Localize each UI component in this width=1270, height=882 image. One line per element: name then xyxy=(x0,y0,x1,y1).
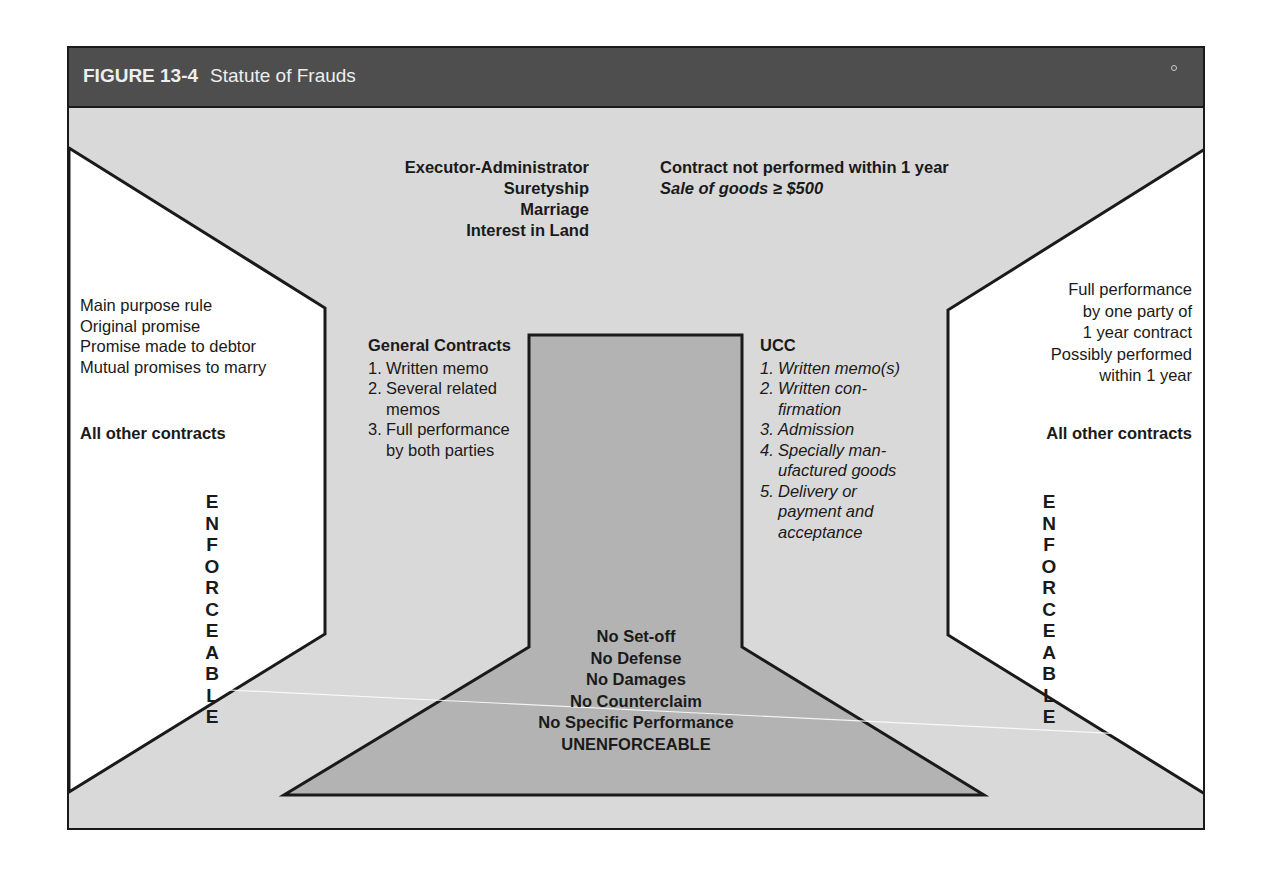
vertical-letter: R xyxy=(202,577,222,599)
list-item: 1.Written memo xyxy=(368,358,511,379)
vertical-letter: B xyxy=(202,663,222,685)
vertical-letter: O xyxy=(202,556,222,578)
consequence-no-defense: No Defense xyxy=(486,648,786,670)
consequence-no-specific-performance: No Specific Performance xyxy=(486,712,786,734)
general-contracts-heading: General Contracts xyxy=(368,335,511,356)
writing-required-categories: Executor-Administrator Suretyship Marria… xyxy=(289,157,589,241)
vertical-letter: E xyxy=(202,620,222,642)
exception-one-year-contract: 1 year contract xyxy=(949,322,1192,344)
category-marriage: Marriage xyxy=(289,199,589,220)
category-sale-of-goods: Sale of goods ≥ $500 xyxy=(660,178,949,199)
right-exceptions-list: Full performance by one party of 1 year … xyxy=(949,279,1192,387)
category-executor-administrator: Executor-Administrator xyxy=(289,157,589,178)
exception-main-purpose: Main purpose rule xyxy=(80,295,266,316)
left-enforceable-label: ENFORCEABLE xyxy=(202,491,222,728)
vertical-letter: E xyxy=(202,706,222,728)
list-item-text: Written memo xyxy=(386,358,488,379)
ucc-heading: UCC xyxy=(760,335,900,356)
exception-mutual-promises: Mutual promises to marry xyxy=(80,357,266,378)
vertical-letter: R xyxy=(1039,577,1059,599)
list-item-number: 3. xyxy=(760,419,778,440)
left-exceptions-list: Main purpose rule Original promise Promi… xyxy=(80,295,266,377)
list-item: 3.Full performanceby both parties xyxy=(368,419,511,460)
unenforceable-label: UNENFORCEABLE xyxy=(486,734,786,756)
consequence-no-setoff: No Set-off xyxy=(486,626,786,648)
list-item-number: 3. xyxy=(368,419,386,460)
general-contracts-list: 1.Written memo2.Several relatedmemos3.Fu… xyxy=(368,358,511,461)
list-item: 1.Written memo(s) xyxy=(760,358,900,379)
left-all-other-contracts: All other contracts xyxy=(80,423,226,444)
consequence-no-counterclaim: No Counterclaim xyxy=(486,691,786,713)
ucc-section: UCC 1.Written memo(s)2.Written con-firma… xyxy=(760,335,900,542)
statute-of-frauds-figure: FIGURE 13-4Statute of Frauds Executor-Ad… xyxy=(67,46,1205,830)
list-item-text: Written con-firmation xyxy=(778,378,867,419)
list-item-text: Specially man-ufactured goods xyxy=(778,440,896,481)
left-enforceable-panel xyxy=(69,148,325,792)
exception-full-performance: Full performance xyxy=(949,279,1192,301)
list-item-number: 2. xyxy=(760,378,778,419)
list-item-text: Delivery orpayment andacceptance xyxy=(778,481,873,543)
category-suretyship: Suretyship xyxy=(289,178,589,199)
list-item: 2.Written con-firmation xyxy=(760,378,900,419)
vertical-letter: F xyxy=(1039,534,1059,556)
category-interest-in-land: Interest in Land xyxy=(289,220,589,241)
vertical-letter: N xyxy=(202,513,222,535)
consequence-no-damages: No Damages xyxy=(486,669,786,691)
writing-required-categories-right: Contract not performed within 1 year Sal… xyxy=(660,157,949,199)
vertical-letter: C xyxy=(202,599,222,621)
list-item: 3.Admission xyxy=(760,419,900,440)
list-item-number: 2. xyxy=(368,378,386,419)
vertical-letter: E xyxy=(202,491,222,513)
exception-original-promise: Original promise xyxy=(80,316,266,337)
list-item-text: Admission xyxy=(778,419,854,440)
vertical-letter: E xyxy=(1039,620,1059,642)
category-one-year: Contract not performed within 1 year xyxy=(660,157,949,178)
exception-promise-to-debtor: Promise made to debtor xyxy=(80,336,266,357)
vertical-letter: L xyxy=(202,685,222,707)
vertical-letter: A xyxy=(202,642,222,664)
vertical-letter: E xyxy=(1039,491,1059,513)
list-item-number: 1. xyxy=(760,358,778,379)
exception-within-one-year: within 1 year xyxy=(949,365,1192,387)
ucc-list: 1.Written memo(s)2.Written con-firmation… xyxy=(760,358,900,543)
vertical-letter: B xyxy=(1039,663,1059,685)
vertical-letter: E xyxy=(1039,706,1059,728)
list-item-number: 4. xyxy=(760,440,778,481)
right-all-other-contracts: All other contracts xyxy=(949,423,1192,444)
vertical-letter: N xyxy=(1039,513,1059,535)
right-enforceable-label: ENFORCEABLE xyxy=(1039,491,1059,728)
list-item-text: Full performanceby both parties xyxy=(386,419,510,460)
vertical-letter: F xyxy=(202,534,222,556)
vertical-letter: L xyxy=(1039,685,1059,707)
unenforceable-consequences: No Set-off No Defense No Damages No Coun… xyxy=(486,626,786,755)
list-item-number: 5. xyxy=(760,481,778,543)
exception-possibly-performed: Possibly performed xyxy=(949,344,1192,366)
list-item: 5.Delivery orpayment andacceptance xyxy=(760,481,900,543)
list-item-text: Written memo(s) xyxy=(778,358,900,379)
vertical-letter: O xyxy=(1039,556,1059,578)
vertical-letter: A xyxy=(1039,642,1059,664)
vertical-letter: C xyxy=(1039,599,1059,621)
list-item: 4.Specially man-ufactured goods xyxy=(760,440,900,481)
exception-by-one-party: by one party of xyxy=(949,301,1192,323)
list-item-number: 1. xyxy=(368,358,386,379)
list-item-text: Several relatedmemos xyxy=(386,378,497,419)
right-enforceable-panel xyxy=(948,149,1205,794)
list-item: 2.Several relatedmemos xyxy=(368,378,511,419)
general-contracts-section: General Contracts 1.Written memo2.Severa… xyxy=(368,335,511,460)
